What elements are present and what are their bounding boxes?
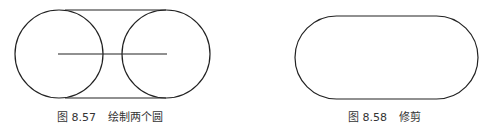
figure-8-58-caption: 图 8.58修剪 <box>348 108 421 124</box>
caption-title: 修剪 <box>399 111 421 124</box>
trimmed-stadium-shape <box>295 16 478 99</box>
caption-number: 图 8.57 <box>57 111 96 124</box>
caption-number: 图 8.58 <box>348 111 387 124</box>
caption-title: 绘制两个圆 <box>108 111 163 124</box>
figure-8-58-drawing <box>295 16 478 99</box>
figure-8-57-caption: 图 8.57绘制两个圆 <box>57 108 163 124</box>
figure-8-57-drawing <box>15 10 210 98</box>
